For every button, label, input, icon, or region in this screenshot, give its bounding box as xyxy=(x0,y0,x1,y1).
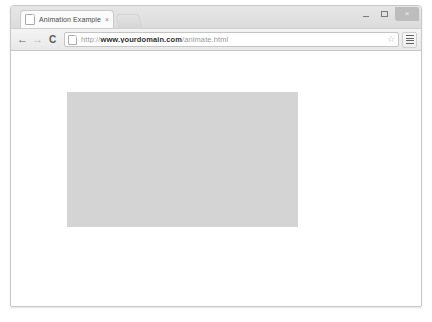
url-host: www.yourdomain.com xyxy=(100,36,182,44)
page-viewport xyxy=(11,51,421,307)
url-scheme: http:// xyxy=(81,36,100,44)
minimize-button[interactable] xyxy=(357,8,374,21)
page-icon xyxy=(25,14,35,25)
browser-toolbar: ← → C http://www.yourdomain.com/animate.… xyxy=(11,29,421,51)
hamburger-line xyxy=(406,43,414,44)
animated-box xyxy=(67,92,298,227)
star-icon[interactable]: ☆ xyxy=(384,35,395,44)
hamburger-line xyxy=(406,38,414,39)
maximize-icon xyxy=(381,11,388,17)
tab-title: Animation Example xyxy=(39,16,103,23)
window-controls: × xyxy=(357,7,419,21)
back-button[interactable]: ← xyxy=(15,32,30,48)
url-path: /animate.html xyxy=(182,36,228,44)
tab-animation-example[interactable]: Animation Example × xyxy=(20,10,114,28)
arrow-right-icon: → xyxy=(32,34,43,45)
arrow-left-icon: ← xyxy=(17,34,28,45)
hamburger-line xyxy=(406,35,414,36)
reload-button[interactable]: C xyxy=(45,32,60,48)
close-icon: × xyxy=(405,10,410,18)
forward-button[interactable]: → xyxy=(30,32,45,48)
close-icon[interactable]: × xyxy=(103,16,109,23)
address-bar[interactable]: http://www.yourdomain.com/animate.html ☆ xyxy=(64,32,399,47)
reload-icon: C xyxy=(49,35,56,45)
page-icon xyxy=(68,35,77,45)
close-button[interactable]: × xyxy=(395,7,419,21)
new-tab-button[interactable] xyxy=(115,14,142,29)
tab-strip: Animation Example × × xyxy=(11,6,421,29)
url-text: http://www.yourdomain.com/animate.html xyxy=(81,36,384,44)
minimize-icon xyxy=(363,16,369,17)
browser-window: Animation Example × × ← → C xyxy=(10,5,422,307)
maximize-button[interactable] xyxy=(376,8,393,21)
menu-button[interactable] xyxy=(402,32,417,48)
hamburger-line xyxy=(406,40,414,41)
